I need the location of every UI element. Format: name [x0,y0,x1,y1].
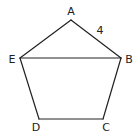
vertex-label-E: E [9,53,16,66]
pentagon-diagram: ABCDE4 [0,0,140,138]
labels: ABCDE4 [9,5,133,134]
vertex-label-D: D [32,121,40,134]
segment-BC [103,58,121,119]
vertex-label-A: A [67,5,75,18]
segment-DE [20,58,39,119]
side-length-label: 4 [97,24,104,37]
diagram-svg: ABCDE4 [0,0,140,138]
vertex-label-B: B [125,53,133,66]
segments [20,20,121,119]
segment-EA [20,20,71,58]
vertex-label-C: C [102,121,110,134]
